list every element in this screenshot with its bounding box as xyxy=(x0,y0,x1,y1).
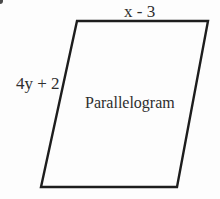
geometry-figure: x - 3 4y + 2 Parallelogram xyxy=(0,0,220,199)
shape-name-label: Parallelogram xyxy=(85,95,175,111)
left-side-length-label: 4y + 2 xyxy=(16,75,60,92)
top-side-length-label: x - 3 xyxy=(124,3,155,20)
